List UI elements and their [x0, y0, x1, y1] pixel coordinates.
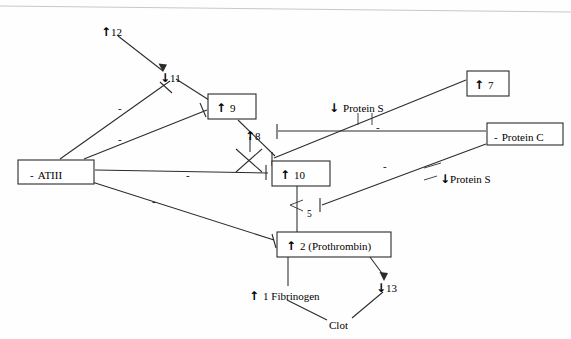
- scan-artifact-line: [0, 6, 571, 12]
- edge-7-to-10: [272, 80, 466, 166]
- node-f5[interactable]: 5: [307, 203, 312, 221]
- node-f12[interactable]: ↑12: [101, 22, 122, 40]
- inactivation-cross-8: [236, 149, 262, 172]
- node-f7[interactable]: ↑ 7: [474, 75, 494, 93]
- up-arrow-icon: ↑: [286, 239, 296, 253]
- node-f5-label: 5: [307, 209, 312, 219]
- edge-atiii-inhibits-9: [84, 103, 207, 159]
- node-f10[interactable]: ↑ 10: [280, 165, 305, 183]
- up-arrow-icon: ↑: [249, 289, 259, 303]
- node-f7-label: 7: [488, 79, 494, 91]
- up-arrow-icon: ↑: [280, 168, 290, 182]
- edge-11-to-9: [176, 79, 209, 100]
- node-clot-label: Clot: [329, 319, 348, 331]
- minus-sign-icon: -: [30, 169, 34, 181]
- node-f11[interactable]: ↓11: [160, 68, 181, 86]
- edge-label-minus-atiii-11: -: [118, 102, 122, 114]
- node-f8-label: 8: [255, 130, 261, 142]
- node-f9[interactable]: ↑ 9: [216, 98, 236, 116]
- node-f12-label: 12: [111, 26, 122, 38]
- node-prothrombin-label: 2 (Prothrombin): [300, 240, 371, 252]
- edge-proteinc-inhibits-8: [277, 124, 486, 139]
- edge-label-minus-atiii-10: -: [186, 169, 190, 181]
- node-protein-c-label: Protein C: [502, 131, 544, 143]
- edge-label-minus-pc-10: -: [383, 160, 387, 172]
- edge-label-minus-pc-7: -: [376, 121, 380, 133]
- node-f13[interactable]: ↓13: [376, 278, 397, 296]
- edge-label-minus-atiii-2: -: [152, 195, 156, 207]
- proteins-lower-cofactor-ticks: [424, 163, 441, 180]
- diagram-canvas: ↑12 ↓11 ↑ 9 ↑8 ↑ 10 ↑ 7 - ATIII - Protei…: [0, 0, 571, 339]
- node-atiii[interactable]: - ATIII: [30, 165, 62, 183]
- down-arrow-icon: ↓: [440, 172, 450, 186]
- up-arrow-icon: ↑: [474, 78, 484, 92]
- node-f10-label: 10: [294, 169, 305, 181]
- edge-12-to-11: [118, 36, 167, 72]
- edge-atiii-inhibits-prothrombin: [92, 182, 276, 248]
- down-arrow-icon: ↓: [329, 101, 339, 115]
- node-protein-s-lower-label: Protein S: [450, 173, 491, 185]
- node-f9-label: 9: [230, 102, 236, 114]
- node-protein-s-upper-label: Protein S: [343, 102, 384, 114]
- up-arrow-icon: ↑: [245, 129, 255, 143]
- node-fibrinogen-label: 1 Fibrinogen: [263, 290, 320, 302]
- minus-sign-icon: -: [494, 131, 498, 143]
- node-fibrinogen[interactable]: ↑ 1 Fibrinogen: [249, 286, 320, 304]
- down-arrow-icon: ↓: [376, 281, 386, 295]
- node-protein-s-upper[interactable]: ↓ Protein S: [329, 98, 384, 116]
- node-f8[interactable]: ↑8: [245, 126, 261, 144]
- node-protein-s-lower[interactable]: ↓Protein S: [440, 169, 491, 187]
- down-arrow-icon: ↓: [160, 71, 170, 85]
- up-arrow-icon: ↑: [216, 101, 226, 115]
- edge-label-minus-atiii-9: -: [118, 133, 122, 145]
- node-clot[interactable]: Clot: [329, 315, 348, 333]
- up-arrow-icon: ↑: [101, 25, 111, 39]
- node-f11-label: 11: [170, 72, 181, 84]
- edge-atiii-inhibits-11: [60, 81, 172, 159]
- node-protein-c[interactable]: - Protein C: [494, 127, 544, 145]
- node-f13-label: 13: [386, 282, 397, 294]
- node-atiii-label: ATIII: [38, 169, 62, 181]
- node-prothrombin[interactable]: ↑ 2 (Prothrombin): [286, 236, 371, 254]
